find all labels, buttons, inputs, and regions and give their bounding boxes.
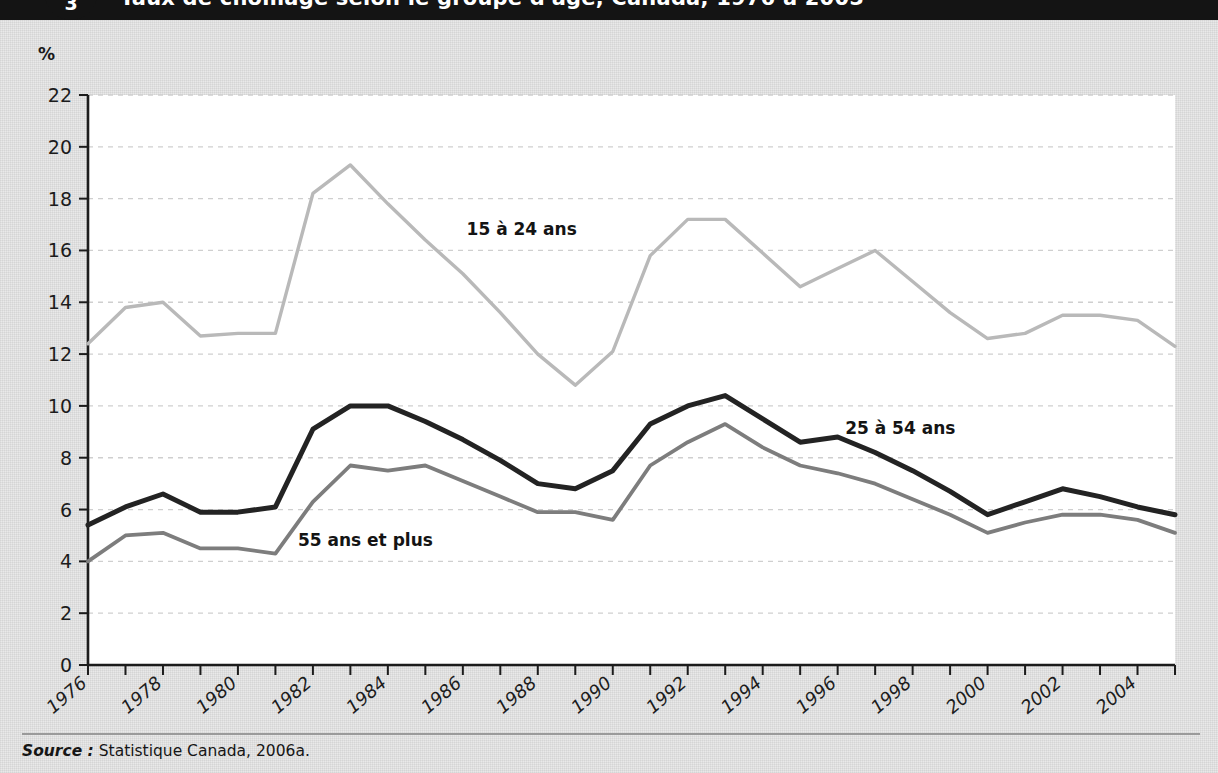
source-note: Source : Statistique Canada, 2006a. <box>22 742 310 760</box>
y-axis-tick-label: 4 <box>60 550 72 572</box>
x-axis-tick-label: 1986 <box>417 672 466 718</box>
plot-wrapper: % 02468101214161820221976197819801982198… <box>0 22 1218 730</box>
plot-area-background <box>88 95 1175 665</box>
x-axis-tick-label: 2000 <box>942 672 991 718</box>
y-axis-tick-label: 10 <box>48 395 72 417</box>
x-axis-tick-label: 1988 <box>492 672 541 718</box>
y-axis-tick-label: 12 <box>48 343 72 365</box>
figure-container: 3 Taux de chômage selon le groupe d'âge,… <box>0 0 1218 773</box>
series-annotation-label: 55 ans et plus <box>298 530 433 550</box>
series-annotation-label: 25 à 54 ans <box>845 418 955 438</box>
source-keyword: Source : <box>22 742 94 760</box>
x-axis-tick-label: 1994 <box>717 672 766 718</box>
y-axis-tick-label: 20 <box>48 136 72 158</box>
x-axis-tick-label: 1996 <box>792 672 841 718</box>
y-axis-tick-label: 2 <box>60 602 72 624</box>
source-text: Statistique Canada, 2006a. <box>99 742 310 760</box>
x-axis-tick-label: 1984 <box>342 672 391 718</box>
x-axis-tick-label: 1976 <box>42 672 91 718</box>
x-axis-tick-label: 2004 <box>1091 672 1140 718</box>
x-axis-tick-label: 1982 <box>267 672 316 718</box>
series-annotation-label: 15 à 24 ans <box>467 219 577 239</box>
y-axis-tick-label: 22 <box>48 84 72 106</box>
figure-banner: 3 Taux de chômage selon le groupe d'âge,… <box>0 0 1218 20</box>
y-axis-tick-label: 18 <box>48 188 72 210</box>
x-axis-tick-label: 1990 <box>567 672 616 718</box>
x-axis-tick-label: 2002 <box>1017 672 1066 718</box>
y-axis-tick-label: 6 <box>60 499 72 521</box>
x-axis-tick-label: 1978 <box>117 672 166 718</box>
x-axis-tick-label: 1992 <box>642 672 691 718</box>
y-axis-tick-label: 14 <box>48 291 72 313</box>
line-chart: 0246810121416182022197619781980198219841… <box>0 22 1218 730</box>
y-axis-tick-label: 16 <box>48 239 72 261</box>
x-axis-tick-label: 1980 <box>192 672 241 718</box>
source-divider <box>22 733 1200 735</box>
y-axis-tick-label: 0 <box>60 654 72 676</box>
x-axis-tick-label: 1998 <box>867 672 916 718</box>
figure-number-badge: 3 <box>45 0 97 20</box>
figure-title: Taux de chômage selon le groupe d'âge, C… <box>120 0 864 10</box>
y-axis-tick-label: 8 <box>60 447 72 469</box>
